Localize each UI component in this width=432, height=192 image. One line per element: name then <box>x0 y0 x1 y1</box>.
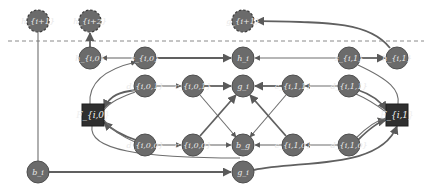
svg-text:h_{i+2}: h_{i+2} <box>73 17 107 26</box>
svg-text:b_i: b_i <box>32 168 44 177</box>
node-s-i-0: s_{i,0} <box>131 47 159 69</box>
node-c-i-0-0: c_{i,0,0} <box>175 134 211 156</box>
svg-text:c_{i,0,1}: c_{i,0,1} <box>175 82 211 91</box>
svg-text:h_i: h_i <box>237 54 249 63</box>
svg-text:s_{i,1}: s_{i,1} <box>335 54 363 63</box>
svg-text:b_g: b_g <box>236 141 250 150</box>
svg-text:g_i: g_i <box>237 168 249 177</box>
svg-text:s_{i,0}: s_{i,0} <box>131 54 159 63</box>
node-c-i-1-0: c_{i,1,0} <box>275 134 311 156</box>
svg-text:F_{i,0}: F_{i,0} <box>75 110 110 121</box>
node-h-i-plus-2: h_{i+2} <box>73 10 107 32</box>
node-h-i-1: h_{i,1} <box>382 47 412 69</box>
node-g-i-mid: g_i <box>232 75 254 97</box>
svg-text:c_{i,1,0}: c_{i,1,0} <box>275 141 311 150</box>
node-b-g: b_g <box>232 134 254 156</box>
svg-text:h_{i,0}: h_{i,0} <box>75 54 105 63</box>
node-d-i-0-0: d_{i,0,0} <box>126 134 163 156</box>
node-c-i-1-1: c_{i,1,1} <box>275 75 311 97</box>
svg-text:h_{i,1}: h_{i,1} <box>382 54 412 63</box>
svg-text:h_{i+1}: h_{i+1} <box>21 17 55 26</box>
svg-text:g_{i+1}: g_{i+1} <box>226 17 260 26</box>
svg-text:c_{i,1,1}: c_{i,1,1} <box>275 82 311 91</box>
svg-text:d_{i,0,0}: d_{i,0,0} <box>126 141 163 150</box>
node-d-i-1-1: d_{i,1,1} <box>330 75 367 97</box>
node-h-i: h_i <box>232 47 254 69</box>
node-b-i: b_i <box>27 161 49 183</box>
graph-diagram: h_{i+1} h_{i+2} g_{i+1} h_{i,0} s_{i,0} … <box>0 0 432 192</box>
node-h-i-0: h_{i,0} <box>75 47 105 69</box>
node-g-i-bottom: g_i <box>232 161 254 183</box>
node-h-i-plus-1: h_{i+1} <box>21 10 55 32</box>
svg-text:d_{i,1,1}: d_{i,1,1} <box>330 82 367 91</box>
svg-text:d_{i,1,0}: d_{i,1,0} <box>330 141 367 150</box>
node-c-i-0-1: c_{i,0,1} <box>175 75 211 97</box>
node-g-i-plus-1: g_{i+1} <box>226 10 260 32</box>
svg-text:g_i: g_i <box>237 82 249 91</box>
svg-text:d_{i,0,1}: d_{i,0,1} <box>126 82 163 91</box>
svg-text:F_{i,1}: F_{i,1} <box>379 110 414 121</box>
svg-text:c_{i,0,0}: c_{i,0,0} <box>175 141 211 150</box>
